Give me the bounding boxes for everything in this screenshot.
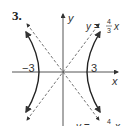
svg-text:y = −: y = − bbox=[75, 121, 98, 126]
svg-text:x: x bbox=[113, 21, 120, 32]
vertex-label-right: 3 bbox=[91, 62, 97, 74]
asymptote-label-upper: y = 4 3 x bbox=[85, 18, 120, 34]
hyperbola-graph: y x −3 3 y = 4 3 x y = − 4 x bbox=[0, 0, 124, 126]
vertex-label-left: −3 bbox=[22, 62, 35, 74]
svg-text:4: 4 bbox=[107, 118, 111, 125]
svg-text:y =: y = bbox=[85, 21, 100, 32]
svg-text:x: x bbox=[114, 121, 121, 126]
svg-text:3: 3 bbox=[107, 27, 111, 34]
svg-text:4: 4 bbox=[107, 18, 111, 25]
y-axis-label: y bbox=[67, 12, 75, 24]
asymptote-label-lower: y = − 4 x bbox=[75, 118, 121, 126]
x-axis-label: x bbox=[111, 75, 118, 87]
